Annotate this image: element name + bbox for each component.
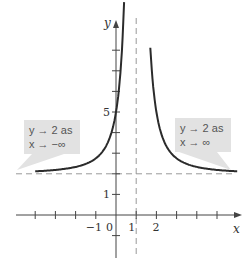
y-axis-arrow	[113, 20, 119, 28]
chart: −101215 y → 2 asx → −∞y → 2 asx → ∞ y x	[0, 0, 250, 263]
right-callout-line: y → 2 as	[180, 122, 224, 134]
y-tick-label: 1	[103, 188, 110, 201]
right-callout-line: x → ∞	[180, 136, 210, 148]
y-axis-label: y	[103, 16, 111, 30]
left-callout-line: x → −∞	[29, 138, 66, 150]
x-tick-label: 0	[106, 221, 113, 234]
x-axis-arrow	[234, 212, 242, 218]
x-tick-label: 2	[152, 221, 159, 234]
x-axis-label: x	[233, 222, 240, 236]
left-callout: y → 2 asx → −∞	[17, 120, 80, 170]
x-tick-label: 1	[128, 221, 135, 234]
left-callout-line: y → 2 as	[29, 124, 73, 136]
callouts: y → 2 asx → −∞y → 2 asx → ∞	[17, 118, 231, 170]
y-tick-label: 5	[103, 106, 110, 119]
x-tick-label: −1	[86, 221, 102, 234]
